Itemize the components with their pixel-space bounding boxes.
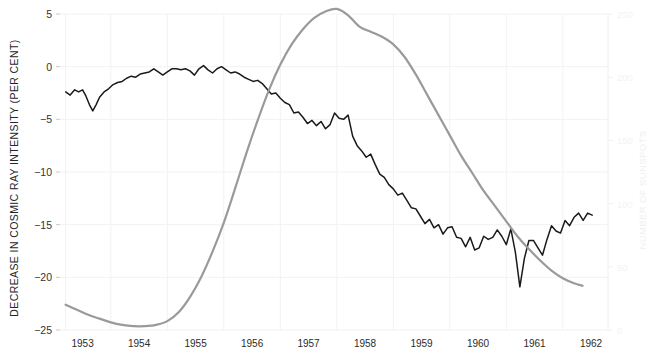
x-axis-tick-label: 1954 — [128, 338, 151, 349]
x-axis-tick-label: 1956 — [241, 338, 264, 349]
y-axis-tick-label: −5 — [40, 113, 52, 125]
y2-axis-tick-label: 250 — [617, 9, 633, 20]
x-axis-tick-label: 1959 — [410, 338, 433, 349]
y-axis-tick-label: −10 — [34, 166, 52, 178]
chart-background — [0, 0, 658, 356]
y2-axis-tick-label: 0 — [617, 325, 622, 336]
y2-axis-tick-label: 50 — [617, 262, 628, 273]
x-axis-tick-label: 1962 — [580, 338, 603, 349]
chart-container: 50−5−10−15−20−25 250200150100500 1953195… — [0, 0, 658, 356]
x-axis-tick-label: 1957 — [297, 338, 320, 349]
x-axis-tick-label: 1953 — [71, 338, 94, 349]
cosmic-ray-sunspot-chart: 50−5−10−15−20−25 250200150100500 1953195… — [0, 0, 658, 356]
y-axis-tick-label: −20 — [34, 271, 52, 283]
y-axis-tick-label: 0 — [46, 61, 52, 73]
x-axis-tick-label: 1961 — [523, 338, 546, 349]
x-axis-tick-label: 1955 — [184, 338, 207, 349]
x-axis-tick-label: 1958 — [354, 338, 377, 349]
y2-axis-tick-label: 100 — [617, 199, 633, 210]
y2-axis-title: NUMBER OF SUNSPOTS — [637, 130, 648, 249]
x-axis-tick-label: 1960 — [467, 338, 490, 349]
y2-axis-tick-label: 200 — [617, 72, 633, 83]
y2-axis-tick-label: 150 — [617, 135, 633, 146]
y-axis-tick-label: −15 — [34, 219, 52, 231]
y-axis-tick-label: −25 — [34, 324, 52, 336]
y-axis-title: DECREASE IN COSMIC RAY INTENSITY (PER CE… — [8, 39, 20, 316]
y-axis-tick-label: 5 — [46, 8, 52, 20]
